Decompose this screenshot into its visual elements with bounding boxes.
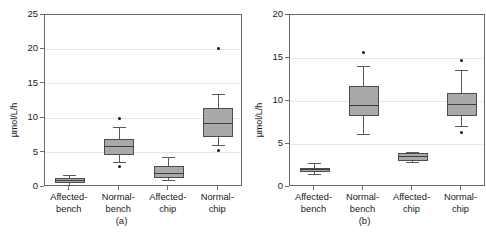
whisker-upper: [461, 70, 462, 93]
y-tick-mark: [285, 143, 289, 144]
x-axis-category-label: Normal-chip: [185, 192, 249, 215]
x-tick-mark: [460, 186, 461, 190]
y-tick-mark: [285, 100, 289, 101]
x-tick-mark: [68, 186, 69, 190]
outlier-point: [460, 59, 463, 62]
x-tick-mark: [167, 186, 168, 190]
y-tick-mark: [40, 14, 44, 15]
x-axis-category-label: Normal-chip: [429, 192, 486, 215]
median-line: [447, 104, 477, 105]
outlier-point: [217, 47, 220, 50]
panel-a: µmol/L/h 0510152025 Affected-benchNormal…: [0, 0, 243, 239]
y-tick-mark: [285, 186, 289, 187]
y-tick-label: 20: [259, 9, 283, 18]
y-tick-label: 25: [14, 9, 38, 18]
y-tick-mark: [285, 57, 289, 58]
x-label-line1: Normal-: [185, 192, 249, 204]
y-tick-label: 10: [14, 112, 38, 121]
whisker-cap-upper: [212, 94, 225, 95]
whisker-cap-lower: [212, 145, 225, 146]
plot-area-a: [44, 14, 242, 186]
y-tick-label: 15: [259, 52, 283, 61]
y-tick-mark: [40, 48, 44, 49]
plot-area-b: [289, 14, 485, 186]
x-tick-mark: [411, 186, 412, 190]
y-axis-label-b: µmol/L/h: [254, 75, 264, 165]
x-tick-mark: [217, 186, 218, 190]
panel-b: µmol/L/h 05101520 Affected-benchNormal-b…: [243, 0, 486, 239]
whisker-cap-lower: [455, 126, 468, 127]
whisker-upper: [218, 94, 219, 108]
x-label-line2: chip: [429, 204, 486, 216]
y-tick-mark: [285, 14, 289, 15]
y-tick-label: 15: [14, 78, 38, 87]
y-tick-label: 10: [259, 95, 283, 104]
y-tick-mark: [40, 82, 44, 83]
x-label-line2: chip: [185, 204, 249, 216]
box-plot-group: [290, 15, 484, 185]
outlier-point: [460, 131, 463, 134]
x-tick-mark: [362, 186, 363, 190]
outlier-point: [217, 149, 220, 152]
y-tick-label: 20: [14, 43, 38, 52]
median-line: [203, 123, 233, 124]
whisker-lower: [461, 116, 462, 127]
panel-caption-b: (b): [243, 215, 486, 226]
whisker-cap-lower: [63, 185, 76, 186]
x-tick-mark: [313, 186, 314, 190]
x-tick-mark: [118, 186, 119, 190]
boxplot-figure: µmol/L/h 0510152025 Affected-benchNormal…: [0, 0, 486, 239]
x-label-line1: Normal-: [429, 192, 486, 204]
y-tick-label: 0: [14, 181, 38, 190]
y-tick-label: 5: [259, 138, 283, 147]
y-tick-mark: [40, 186, 44, 187]
y-tick-mark: [40, 117, 44, 118]
box-plot-group: [45, 15, 241, 185]
y-tick-label: 0: [259, 181, 283, 190]
whisker-cap-upper: [455, 70, 468, 71]
y-tick-label: 5: [14, 147, 38, 156]
y-tick-mark: [40, 151, 44, 152]
panel-caption-a: (a): [0, 215, 243, 226]
